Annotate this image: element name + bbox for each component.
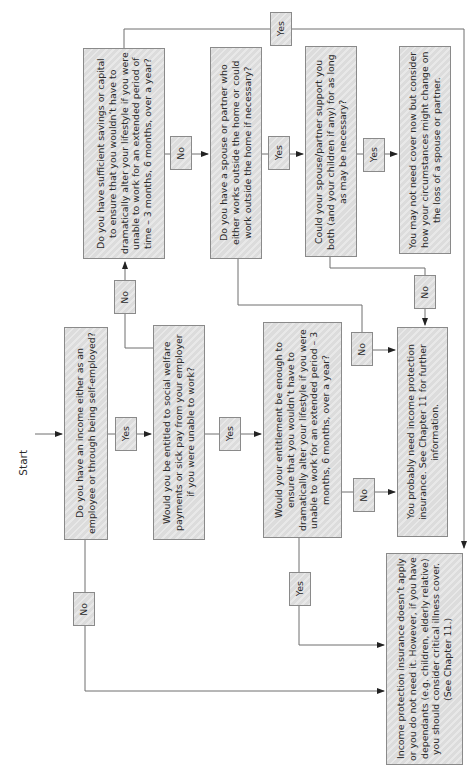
edge-label-spouse-support-no: No — [414, 275, 436, 309]
edge-label-entitlement-no: No — [353, 478, 375, 512]
edge-label-welfare-yes: Yes — [219, 417, 241, 451]
question-spouse-support: Could your spouse/partner support you bo… — [305, 46, 357, 257]
edge-label-spouse-works-yes: Yes — [268, 136, 290, 170]
question-spouse-works: Do you have a spouse or partner who eith… — [210, 47, 262, 259]
question-social-welfare: Would you be entitled to social welfare … — [153, 325, 205, 540]
result-not-apply: Income protection insurance doesn’t appl… — [386, 553, 463, 765]
edge-label-spouse-works-no: No — [351, 332, 373, 366]
result-may-not-need-cover: You may not need cover now but consider … — [399, 46, 451, 254]
edge-label-entitlement-yes: Yes — [289, 572, 311, 606]
result-probably-need-cover: You probably need income protection insu… — [397, 327, 448, 537]
question-income: Do you have an income either as an emplo… — [64, 327, 108, 540]
edge-label-savings-no: No — [170, 136, 192, 170]
edge-label-spouse-support-yes: Yes — [363, 138, 385, 172]
edge-label-welfare-no: No — [114, 280, 136, 314]
edge-label-income-yes: Yes — [115, 417, 137, 451]
edge-label-income-no: No — [73, 592, 95, 626]
edge-label-savings-yes: Yes — [270, 12, 292, 46]
question-entitlement-enough: Would your entitlement be enough to ensu… — [263, 322, 342, 538]
start-label: Start — [16, 443, 30, 483]
question-savings: Do you have sufficient savings or capita… — [83, 48, 165, 259]
